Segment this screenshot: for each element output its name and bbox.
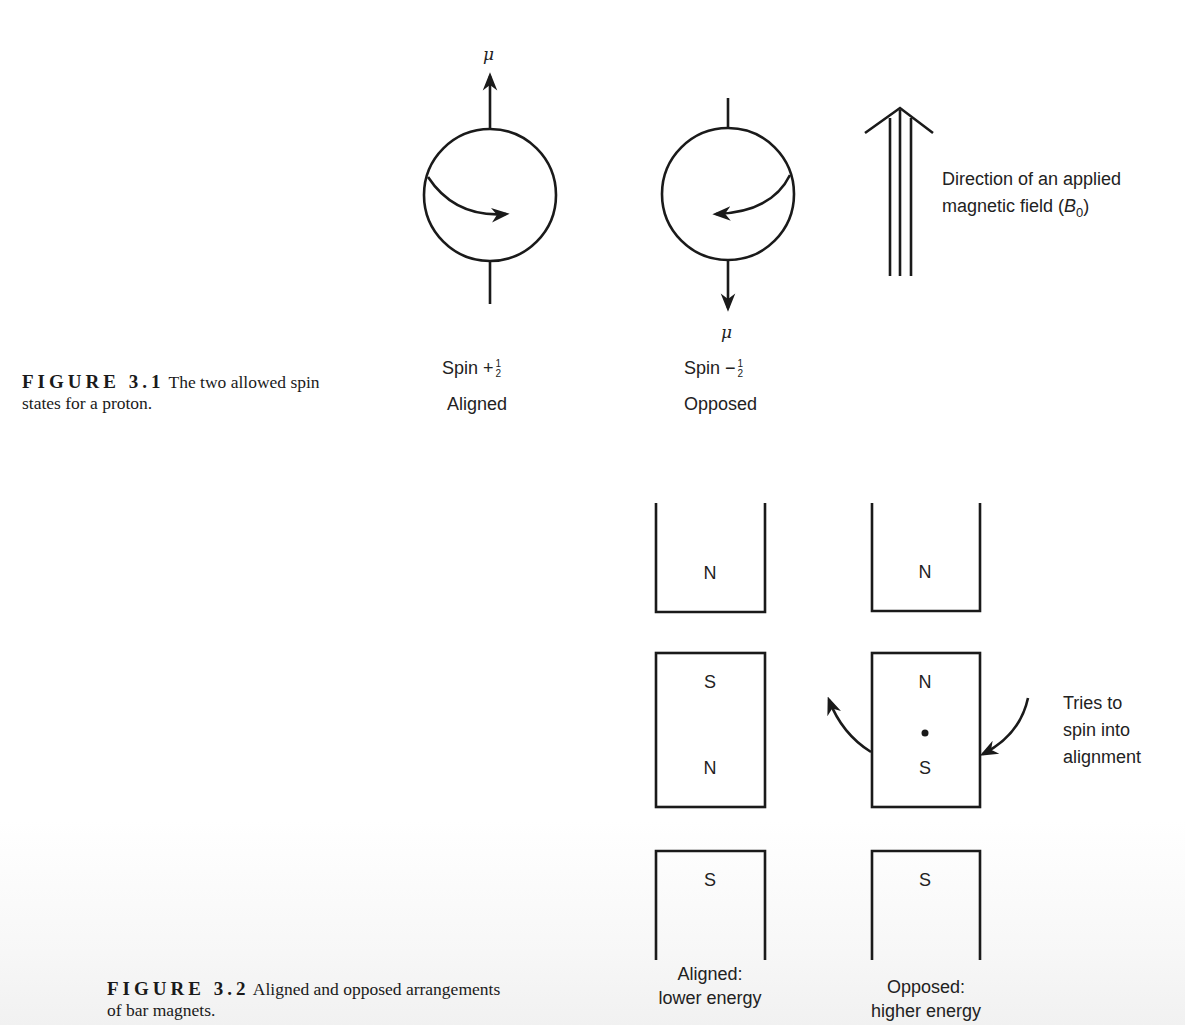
pivot-dot-icon — [922, 730, 929, 737]
pole-label: N — [910, 562, 940, 583]
rotation-arrow-icon — [716, 175, 790, 214]
opposed-energy-label: Opposed: higher energy — [851, 975, 1001, 1023]
moment-symbol-down: μ — [721, 322, 732, 342]
figure-line-art — [0, 0, 1185, 1025]
spin-up-label: Spin +12 — [442, 356, 532, 380]
proton-spin-down — [662, 98, 794, 308]
pole-label: N — [910, 672, 940, 693]
bar-magnet-bottom — [656, 851, 765, 960]
spin-down-label: Spin −12 — [684, 356, 774, 380]
figure-3-1-caption: FIGURE 3.1 The two allowed spin states f… — [22, 371, 422, 414]
caption-label: FIGURE 3.1 — [22, 371, 164, 392]
pole-label: N — [695, 563, 725, 584]
bar-magnet-top — [656, 503, 765, 612]
one-half-fraction: 12 — [496, 359, 502, 379]
pole-label: N — [695, 758, 725, 779]
pole-label: S — [695, 870, 725, 891]
pole-label: S — [910, 870, 940, 891]
spin-text: Spin + — [442, 358, 494, 378]
pole-label: S — [910, 758, 940, 779]
rotation-note: Tries to spin into alignment — [1063, 690, 1141, 771]
pole-label: S — [695, 672, 725, 693]
caption-label: FIGURE 3.2 — [107, 978, 249, 999]
aligned-energy-label: Aligned: lower energy — [640, 962, 780, 1010]
opposed-state-label: Opposed — [684, 392, 757, 416]
bar-magnet-top — [872, 503, 980, 611]
bar-magnet-bottom — [872, 851, 980, 960]
figure-3-2-caption: FIGURE 3.2 Aligned and opposed arrangeme… — [107, 978, 627, 1021]
applied-field-arrow-icon — [865, 108, 933, 276]
applied-field-label: Direction of an applied magnetic field (… — [942, 166, 1121, 226]
aligned-state-label: Aligned — [447, 392, 507, 416]
rotation-arrow-icon — [428, 177, 506, 214]
moment-symbol-up: μ — [483, 44, 494, 64]
one-half-fraction: 12 — [738, 359, 744, 379]
rotation-arrow-right-icon — [983, 698, 1028, 754]
rotation-arrow-left-icon — [829, 700, 871, 752]
spin-text: Spin − — [684, 358, 736, 378]
proton-spin-up — [424, 76, 556, 304]
